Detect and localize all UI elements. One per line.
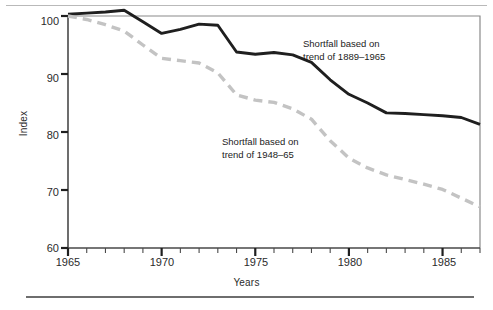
annotation-1889-1965-line1: Shortfall based on [303,38,385,51]
bottom-rule [26,296,474,298]
annotation-1889-1965: Shortfall based on trend of 1889–1965 [303,38,385,63]
annotation-1948-65-line1: Shortfall based on [222,136,299,149]
y-tick-label-70: 70 [25,186,59,198]
series-line [68,10,480,124]
y-tick-label-60: 60 [25,242,59,254]
series-line [68,16,480,207]
annotation-1948-65: Shortfall based on trend of 1948–65 [222,136,299,161]
x-tick-label-1985: 1985 [416,256,472,268]
x-tick-label-1980: 1980 [322,256,378,268]
y-tick-label-100: 100 [25,15,59,27]
x-tick-label-1965: 1965 [40,256,96,268]
y-axis-title: Index [18,94,29,154]
annotation-1889-1965-line2: trend of 1889–1965 [303,51,385,64]
figure-container: Index Years 100 90 80 70 60 1965 1970 19… [0,0,493,310]
x-tick-label-1970: 1970 [134,256,190,268]
y-tick-label-80: 80 [25,129,59,141]
x-tick-label-1975: 1975 [228,256,284,268]
y-tick-label-90: 90 [25,72,59,84]
x-axis-title: Years [0,277,493,288]
annotation-1948-65-line2: trend of 1948–65 [222,149,299,162]
